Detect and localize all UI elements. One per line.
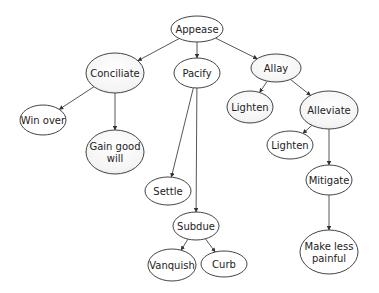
edge-alleviate-to-lighten-2 (303, 125, 312, 133)
node-label: Lighten (271, 140, 308, 151)
edge-appease-to-allay (216, 38, 258, 59)
node-label: will (107, 153, 124, 164)
node-appease: Appease (171, 16, 223, 42)
edge-pacify-to-settle (171, 88, 193, 177)
node-label: Curb (212, 259, 236, 270)
node-label: Settle (153, 186, 182, 197)
node-conciliate: Conciliate (86, 53, 144, 93)
node-allay: Allay (251, 54, 301, 82)
node-alleviate: Alleviate (300, 91, 358, 129)
node-label: Appease (175, 24, 218, 35)
node-pacify: Pacify (174, 58, 220, 88)
node-label: Allay (264, 63, 289, 74)
node-label: Gain good (89, 141, 140, 152)
node-win-over: Win over (20, 105, 66, 135)
node-label: Alleviate (307, 105, 350, 116)
node-gain-good-will: Gain goodwill (86, 130, 144, 174)
edge-allay-to-alleviate (290, 79, 310, 95)
node-label: Win over (21, 115, 66, 126)
edge-appease-to-conciliate (138, 39, 179, 61)
node-curb: Curb (201, 251, 247, 277)
node-label: Vanquish (149, 260, 195, 271)
node-label: Lighten (231, 102, 268, 113)
node-label: Mitigate (309, 175, 350, 186)
edge-conciliate-to-win-over (59, 87, 94, 110)
node-label: Conciliate (90, 68, 139, 79)
node-make-less-painful: Make lesspainful (300, 230, 358, 274)
node-mitigate: Mitigate (306, 165, 352, 195)
node-label: Subdue (177, 221, 215, 232)
node-subdue: Subdue (173, 212, 219, 240)
node-lighten-1: Lighten (227, 91, 273, 123)
edge-pacify-to-subdue (196, 88, 197, 212)
node-label: Pacify (182, 68, 211, 79)
edge-subdue-to-curb (205, 239, 215, 252)
nodes-layer: AppeaseConciliatePacifyAllayWin overGain… (20, 16, 358, 281)
synonym-tree-diagram: AppeaseConciliatePacifyAllayWin overGain… (0, 0, 379, 293)
node-label: painful (312, 253, 346, 264)
node-settle: Settle (145, 177, 191, 205)
edge-subdue-to-vanquish (181, 239, 188, 250)
node-vanquish: Vanquish (148, 249, 196, 281)
node-lighten-2: Lighten (267, 131, 313, 159)
node-label: Make less (305, 241, 354, 252)
edge-allay-to-lighten-1 (260, 81, 268, 92)
